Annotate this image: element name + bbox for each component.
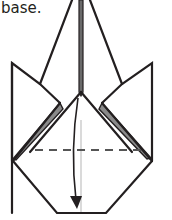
top-point-right-edge [90, 0, 122, 84]
center-spine [79, 0, 83, 96]
top-point-left-edge [40, 0, 72, 84]
center-right-diagonal [81, 92, 132, 152]
right-flap-inner-edge [102, 103, 152, 161]
fold-arrow-head-icon [70, 196, 82, 209]
origami-diagram [0, 0, 172, 220]
left-flap-inner-edge [13, 103, 60, 161]
body-bottom-outline [13, 161, 152, 213]
